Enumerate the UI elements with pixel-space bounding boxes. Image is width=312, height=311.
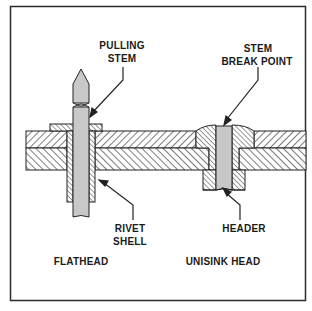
flathead-caption: FLATHEAD [54,256,109,267]
pulling-stem-label-line2: STEM [108,53,137,64]
stem-break-label-line2: BREAK POINT [221,56,292,67]
unisink-stem [216,126,232,190]
pulling-stem-label-line1: PULLING [99,40,144,51]
rivet-diagram: PULLING STEM STEM BREAK POINT RIVET SHEL… [0,0,312,311]
stem-break-leader [227,67,258,119]
header-right [232,170,245,190]
rivet-shell-label-line1: RIVET [115,223,145,234]
pulling-stem-shaft [73,107,89,217]
rivet-shell-wall-right [89,131,95,202]
header-leader [226,193,240,220]
header-label: HEADER [222,223,266,234]
rivet-shell-wall-left [67,131,73,202]
unisink-head-caption: UNISINK HEAD [186,256,261,267]
rivet-shell-label-line2: SHELL [113,236,147,247]
pulling-stem-leader [92,67,123,113]
rivet-shell-leader [104,183,133,220]
pulling-stem-tip [73,69,89,103]
stem-break-label-line1: STEM [244,43,273,54]
header-left [203,170,216,190]
arrowhead-icon [224,116,231,125]
